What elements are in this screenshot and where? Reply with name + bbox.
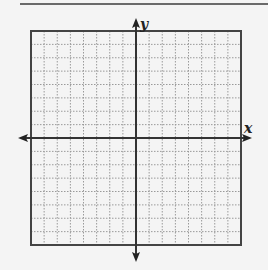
coordinate-plane xyxy=(0,0,268,270)
x-axis-label: x xyxy=(244,121,252,135)
y-axis-label: y xyxy=(140,17,148,31)
